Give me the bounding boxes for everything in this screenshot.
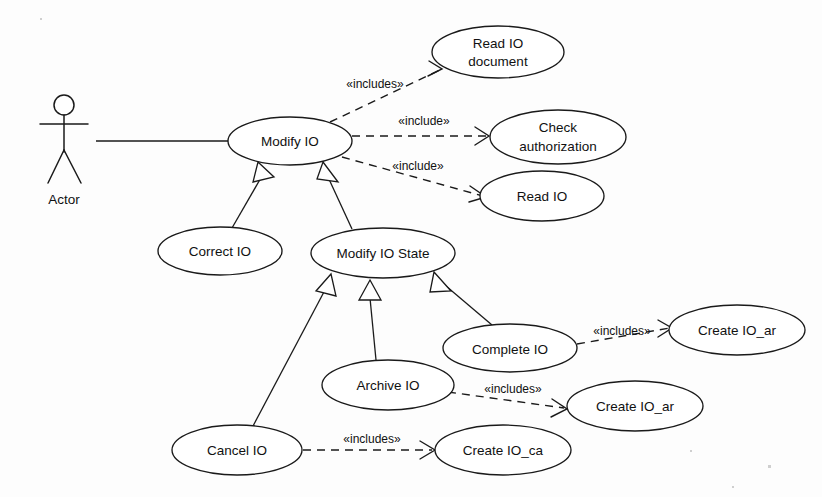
generalization-archive-io-to-modify-io-state[interactable] — [359, 280, 381, 360]
stereotype-label-includes-create-io-ar-top: «includes» — [593, 324, 651, 338]
use-case-read-io-document[interactable]: Read IO document — [432, 26, 564, 78]
use-case-cancel-io[interactable]: Cancel IO — [172, 425, 302, 475]
generalization-line — [446, 286, 492, 325]
generalization-line — [232, 176, 262, 228]
use-case-check-authorization[interactable]: Check authorization — [490, 110, 626, 164]
use-case-label: Archive IO — [356, 378, 419, 393]
use-case-nodes: Modify IO Read IO document Check authori… — [158, 26, 805, 475]
use-case-label: Read IO — [517, 189, 567, 204]
stereotype-label-include-check-authorization: «include» — [398, 114, 450, 128]
use-case-complete-io[interactable]: Complete IO — [443, 324, 577, 372]
include-edge-modify-io-to-check-authorization[interactable] — [352, 127, 489, 145]
include-edge-modify-io-to-read-io-document[interactable] — [330, 61, 442, 122]
use-case-archive-io[interactable]: Archive IO — [322, 360, 454, 410]
actor-label: Actor — [48, 192, 80, 207]
generalization-line — [253, 290, 325, 426]
hollow-triangle-arrowhead-icon — [317, 162, 338, 182]
generalization-cancel-io-to-modify-io-state[interactable] — [253, 274, 336, 426]
use-case-create-io-ca[interactable]: Create IO_ca — [435, 425, 571, 475]
use-case-label-line1: Read IO — [473, 36, 523, 51]
actor-figure[interactable]: Actor — [40, 95, 88, 207]
use-case-label: Create IO_ca — [463, 443, 544, 458]
hollow-triangle-arrowhead-icon — [359, 280, 381, 300]
use-case-correct-io[interactable]: Correct IO — [158, 227, 282, 275]
use-case-label: Create IO_ar — [698, 323, 777, 338]
use-case-label-line2: document — [468, 54, 528, 69]
generalization-line — [370, 298, 376, 360]
generalization-modify-io-state-to-modify-io[interactable] — [317, 162, 352, 229]
stereotype-label-includes-create-io-ar-middle: «includes» — [484, 382, 542, 396]
use-case-ellipse — [490, 110, 626, 164]
actor-leg-left — [48, 150, 64, 183]
generalization-line — [328, 177, 352, 229]
use-case-label: Correct IO — [189, 244, 251, 259]
uml-diagram-svg: Actor — [0, 0, 822, 497]
actor-head-icon — [54, 95, 74, 115]
use-case-ellipse — [432, 26, 564, 78]
use-case-label-line2: authorization — [519, 139, 596, 154]
use-case-modify-io-state[interactable]: Modify IO State — [311, 228, 455, 278]
use-case-label: Modify IO State — [336, 246, 429, 261]
generalization-complete-io-to-modify-io-state[interactable] — [430, 272, 492, 325]
use-case-diagram-canvas: Actor — [0, 0, 822, 497]
use-case-modify-io[interactable]: Modify IO — [228, 117, 352, 165]
use-case-create-io-ar-top[interactable]: Create IO_ar — [669, 305, 805, 355]
stereotype-label-include-read-io: «include» — [392, 159, 444, 173]
use-case-label: Complete IO — [472, 342, 548, 357]
stereotype-label-includes-create-io-ca: «includes» — [343, 432, 401, 446]
use-case-label: Create IO_ar — [596, 399, 675, 414]
use-case-read-io[interactable]: Read IO — [480, 171, 604, 221]
hollow-triangle-arrowhead-icon — [430, 272, 451, 292]
use-case-label: Modify IO — [261, 134, 319, 149]
hollow-triangle-arrowhead-icon — [253, 162, 274, 182]
use-case-label: Cancel IO — [207, 443, 267, 458]
hollow-triangle-arrowhead-icon — [316, 274, 336, 296]
generalization-correct-io-to-modify-io[interactable] — [232, 162, 274, 228]
use-case-label-line1: Check — [539, 120, 578, 135]
stereotype-label-includes-read-io-document: «includes» — [346, 77, 404, 91]
use-case-create-io-ar-middle[interactable]: Create IO_ar — [567, 381, 703, 431]
actor-leg-right — [64, 150, 81, 183]
